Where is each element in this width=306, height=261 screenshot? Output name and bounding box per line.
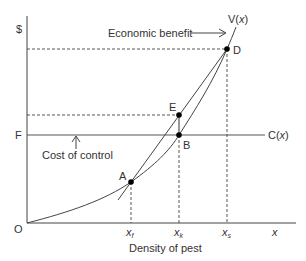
point-a-label: A: [119, 170, 127, 182]
level-label-f: F: [15, 129, 22, 141]
point-b: [176, 132, 182, 138]
point-b-label: B: [183, 139, 190, 151]
cost-of-control-label: Cost of control: [42, 149, 113, 161]
point-e: [176, 112, 182, 118]
point-d-label: D: [233, 44, 241, 56]
benefit-curve: [27, 27, 236, 223]
point-d: [224, 46, 230, 52]
point-a: [128, 179, 134, 185]
tick-xs: xs: [221, 226, 232, 239]
pest-control-diagram: $ F O Economic benefit Cost of control V…: [0, 0, 306, 261]
origin-label: O: [14, 223, 23, 235]
cost-curve-label: C(x): [268, 129, 289, 141]
dashed-guides: [27, 49, 227, 223]
x-axis-title: Density of pest: [129, 242, 202, 254]
tick-xk: xk: [173, 226, 184, 239]
y-axis-label: $: [16, 23, 22, 35]
economic-benefit-label: Economic benefit: [108, 27, 192, 39]
x-axis-end-label: x: [271, 226, 278, 238]
chord-a-d: [118, 49, 227, 200]
point-e-label: E: [169, 101, 176, 113]
tick-xf: xf: [125, 226, 135, 239]
benefit-curve-label: V(x): [228, 13, 248, 25]
